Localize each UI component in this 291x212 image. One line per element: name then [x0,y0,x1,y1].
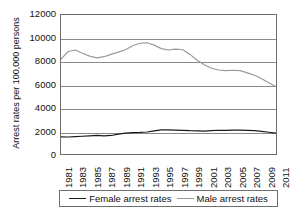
y-tick-label: 6000 [10,80,56,89]
legend-line-swatch [177,198,194,199]
legend-label: Male arrest rates [197,194,268,204]
x-tick-label: 2005 [238,167,247,188]
x-tick-label: 2011 [281,168,290,188]
series-line [61,130,276,137]
y-tick-label: 8000 [10,56,56,65]
series-lines [61,15,276,154]
legend-label: Female arrest rates [89,194,171,204]
legend-line-swatch [69,198,86,199]
legend-item[interactable]: Female arrest rates [69,194,171,204]
y-axis-tick-labels: 120001000080006000400020000 [8,0,56,212]
x-tick-label: 1995 [165,167,174,188]
x-tick-label: 2003 [223,167,232,188]
line-chart: Arrest rates per 100,000 persons 1200010… [0,0,291,212]
x-tick-label: 1997 [180,167,189,188]
y-tick-label: 12000 [10,9,56,18]
chart-legend: Female arrest ratesMale arrest rates [59,190,278,207]
x-tick-label: 1985 [93,167,102,188]
x-tick-label: 1993 [151,167,160,188]
x-tick-label: 1989 [122,167,131,188]
legend-item[interactable]: Male arrest rates [177,194,268,204]
y-tick-label: 4000 [10,103,56,112]
y-tick-label: 10000 [10,33,56,42]
plot-area [60,14,277,155]
x-tick-label: 1991 [136,167,145,188]
x-tick-label: 2001 [209,167,218,188]
series-line [61,43,276,87]
x-tick-label: 1999 [194,167,203,188]
x-tick-label: 2007 [252,167,261,188]
y-tick-label: 0 [10,150,56,159]
x-tick-label: 1983 [78,167,87,188]
x-tick-label: 1981 [64,167,73,188]
x-tick-label: 1987 [107,167,116,188]
x-axis-tick-labels: 1981198319851987198919911993199519971999… [60,156,277,190]
y-tick-label: 2000 [10,127,56,136]
x-tick-label: 2009 [267,167,276,188]
